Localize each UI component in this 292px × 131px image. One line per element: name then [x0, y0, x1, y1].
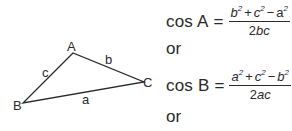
vertex-label-c: C: [143, 75, 152, 90]
exponent: 2: [239, 68, 243, 77]
variables: ac: [257, 87, 271, 102]
side-label-b: b: [105, 52, 112, 67]
coefficient: 2: [250, 87, 257, 102]
variables: bc: [256, 23, 270, 38]
formula-lhs: cos A: [166, 13, 209, 30]
term: a: [276, 5, 283, 20]
triangle-diagram: A B C c b a: [0, 0, 160, 131]
operator: −: [268, 69, 276, 84]
term: b: [277, 69, 284, 84]
cosine-rule-cos-a: cos A = b2+c2−a2 2bc: [166, 6, 290, 37]
connector-or: or: [166, 107, 181, 127]
denominator: 2bc: [249, 22, 270, 37]
exponent: 2: [260, 4, 264, 13]
operator: −: [267, 5, 275, 20]
term: a: [231, 69, 238, 84]
side-label-a: a: [82, 92, 90, 107]
operator: +: [244, 5, 252, 20]
connector-or: or: [166, 39, 181, 59]
numerator: a2+c2−b2: [229, 70, 291, 86]
fraction: b2+c2−a2 2bc: [229, 6, 291, 37]
vertex-label-a: A: [67, 39, 76, 54]
coefficient: 2: [249, 23, 256, 38]
fraction: a2+c2−b2 2ac: [229, 70, 291, 101]
cosine-rule-cos-b: cos B = a2+c2−b2 2ac: [166, 70, 291, 101]
exponent: 2: [285, 68, 289, 77]
exponent: 2: [261, 68, 265, 77]
formula-lhs: cos B: [166, 77, 210, 94]
equals-sign: =: [214, 13, 224, 30]
vertex-label-b: B: [13, 98, 22, 113]
operator: +: [245, 69, 253, 84]
exponent: 2: [238, 4, 242, 13]
denominator: 2ac: [250, 86, 271, 101]
exponent: 2: [284, 4, 288, 13]
equals-sign: =: [215, 77, 225, 94]
term: b: [231, 5, 238, 20]
side-label-c: c: [42, 65, 49, 80]
numerator: b2+c2−a2: [229, 6, 291, 22]
